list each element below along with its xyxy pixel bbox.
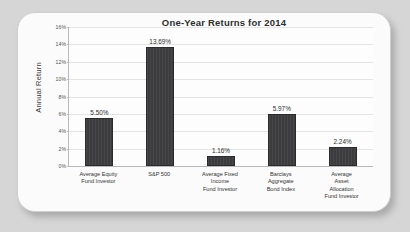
bar-value-label: 13.69% <box>149 38 171 45</box>
y-tick-mark <box>67 166 69 167</box>
y-tick-label: 10% <box>56 76 66 82</box>
bar-slot: 2.24% <box>312 27 373 166</box>
x-category-label: Average EquityFund Investor <box>65 171 131 186</box>
x-category-label: AverageAssetAllocationFund Investor <box>309 171 375 201</box>
x-category-label: S&P 500 <box>126 171 192 178</box>
y-tick-label: 14% <box>56 41 66 47</box>
y-tick-label: 4% <box>59 128 67 134</box>
x-category-label: Average FixedIncomeFund Investor <box>187 171 253 193</box>
bar-value-label: 5.97% <box>273 105 291 112</box>
bar-value-label: 1.16% <box>212 147 230 154</box>
bar-slot: 1.16% <box>191 27 252 166</box>
y-tick-label: 16% <box>56 24 66 30</box>
y-axis-title: Annual Return <box>34 48 43 128</box>
y-tick-label: 2% <box>59 146 67 152</box>
y-tick-label: 6% <box>59 111 67 117</box>
bar-value-label: 2.24% <box>334 138 352 145</box>
bar[interactable] <box>207 156 235 166</box>
y-tick-label: 0% <box>59 163 67 169</box>
y-tick-label: 12% <box>56 59 66 65</box>
bar-slot: 5.50% <box>69 27 130 166</box>
y-tick-label: 8% <box>59 94 67 100</box>
plot-area: 0%2%4%6%8%10%12%14%16%5.50%13.69%1.16%5.… <box>68 27 373 167</box>
bar-value-label: 5.50% <box>90 109 108 116</box>
bar[interactable] <box>85 118 113 166</box>
bar[interactable] <box>146 47 174 166</box>
bar-slot: 13.69% <box>130 27 191 166</box>
bar[interactable] <box>329 147 357 166</box>
bar[interactable] <box>268 114 296 166</box>
gridline <box>69 166 373 167</box>
x-category-label: BarclaysAggregateBond Index <box>248 171 314 193</box>
chart-card: One-Year Returns for 2014 Annual Return … <box>17 12 391 212</box>
bar-slot: 5.97% <box>251 27 312 166</box>
